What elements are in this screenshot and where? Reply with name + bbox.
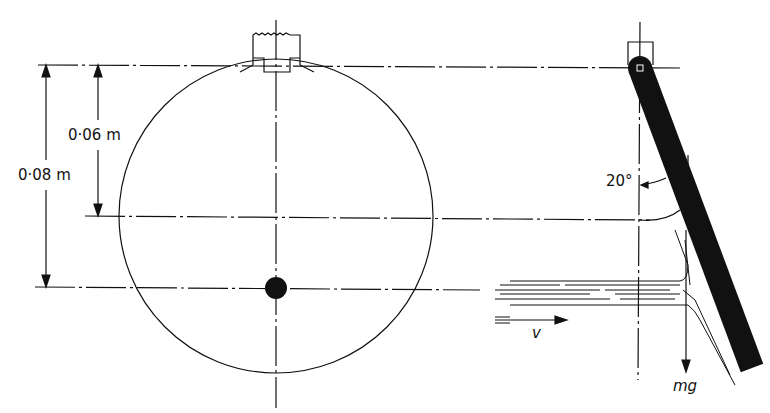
- pivoted-bar: [628, 56, 752, 368]
- diagram-canvas: [0, 0, 770, 413]
- label-0.06m: 0·06 m: [68, 126, 121, 144]
- pivot-level-line: [38, 65, 680, 68]
- velocity-arrow: [510, 316, 567, 324]
- label-weight: mg: [673, 377, 697, 395]
- level-0.06-line: [85, 216, 650, 220]
- label-angle: 20°: [606, 172, 633, 190]
- label-velocity: v: [532, 324, 541, 342]
- centre-of-mass-dot: [265, 277, 287, 299]
- label-0.08m: 0·08 m: [18, 166, 71, 184]
- level-0.08-line: [35, 287, 480, 290]
